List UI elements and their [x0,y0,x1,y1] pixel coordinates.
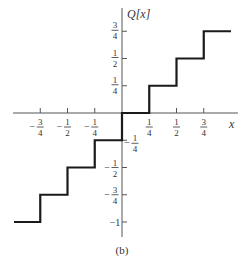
y-axis-label: Q[x] [127,7,151,21]
svg-text:1: 1 [93,117,98,127]
svg-text:2: 2 [113,169,118,179]
svg-text:4: 4 [113,86,118,96]
svg-text:3: 3 [38,117,43,127]
svg-text:2: 2 [65,128,70,138]
svg-text:4: 4 [113,31,118,41]
svg-text:4: 4 [113,196,118,206]
y-tick-label: −1 [110,217,121,228]
y-tick-label: 12 [112,48,119,69]
svg-text:3: 3 [202,117,207,127]
x-axis-label: x [228,117,235,131]
y-tick-label: 12− [104,158,118,179]
svg-text:−: − [104,162,110,173]
svg-text:1: 1 [65,117,70,127]
x-tick-label: 34 [200,117,207,138]
svg-text:2: 2 [174,128,179,138]
svg-text:−: − [29,121,35,132]
y-tick-label: 34 [112,20,119,41]
x-tick-label: 12− [57,117,71,138]
svg-text:4: 4 [93,128,98,138]
x-tick-label: 12 [173,117,180,138]
svg-text:3: 3 [113,20,118,30]
y-tick-label: 34− [104,185,118,206]
x-tick-label: 14 [146,117,153,138]
y-tick-label: 14 [112,75,119,96]
svg-text:1: 1 [133,133,138,143]
svg-text:−: − [84,121,90,132]
quantizer-step-chart: 34−12−14−14123434121414−12−34−−1 Q[x] x … [0,0,244,271]
svg-text:−: − [104,189,110,200]
svg-text:3: 3 [113,185,118,195]
svg-text:4: 4 [133,144,138,154]
svg-text:−: − [57,121,63,132]
svg-text:1: 1 [174,117,179,127]
svg-text:1: 1 [147,117,152,127]
svg-text:1: 1 [113,158,118,168]
ticks: 34−12−14−14123434121414−12−34−−1 [29,20,207,228]
svg-text:4: 4 [202,128,207,138]
svg-text:1: 1 [113,48,118,58]
svg-text:4: 4 [38,128,43,138]
svg-text:−1: −1 [110,217,121,228]
y-tick-label: 14− [124,133,138,154]
x-tick-label: 14− [84,117,98,138]
x-tick-label: 34− [29,117,43,138]
svg-text:2: 2 [113,59,118,69]
figure-caption: (b) [116,244,129,257]
svg-text:−: − [124,137,130,148]
svg-text:1: 1 [113,75,118,85]
svg-text:4: 4 [147,128,152,138]
